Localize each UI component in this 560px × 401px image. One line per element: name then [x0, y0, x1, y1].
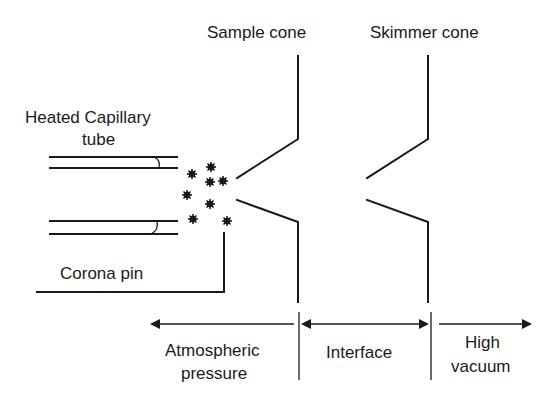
ion-icon: [182, 190, 192, 200]
atmospheric-label-line1: Atmospheric: [165, 341, 260, 360]
high-vacuum-label-line2: vacuum: [451, 357, 511, 376]
interface-label: Interface: [326, 343, 392, 362]
skimmer-cone-label: Skimmer cone: [370, 23, 479, 42]
ion-icon: [218, 176, 228, 186]
corona-pin-label: Corona pin: [60, 264, 143, 283]
capillary-label-line2: tube: [82, 130, 115, 149]
sample-cone: [237, 56, 298, 302]
ion-icon: [222, 216, 232, 226]
capillary-label-line1: Heated Capillary: [25, 108, 151, 127]
corona-pin: [37, 233, 224, 292]
skimmer-cone: [367, 56, 428, 302]
ion-icon: [206, 162, 216, 172]
ion-cloud: [182, 162, 232, 226]
sample-cone-label: Sample cone: [207, 23, 306, 42]
high-vacuum-label-line1: High: [465, 333, 500, 352]
ion-icon: [187, 169, 197, 179]
apci-source-diagram: Sample cone Skimmer cone Heated Capillar…: [0, 0, 560, 401]
ion-icon: [188, 214, 198, 224]
capillary-tube-upper: [50, 157, 177, 168]
ion-icon: [205, 177, 215, 187]
ion-icon: [205, 199, 215, 209]
capillary-tube-lower: [50, 221, 177, 234]
atmospheric-label-line2: pressure: [181, 364, 247, 383]
